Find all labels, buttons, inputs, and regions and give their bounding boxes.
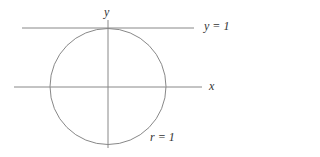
- circle-radius-label: r = 1: [150, 131, 175, 143]
- line-label: y = 1: [204, 20, 229, 32]
- y-axis-label: y: [104, 6, 109, 18]
- x-axis-label: x: [209, 80, 214, 92]
